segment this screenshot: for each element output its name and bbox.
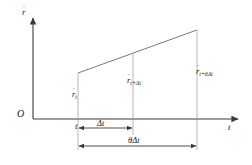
curve-label-sub-1: t — [75, 94, 77, 100]
curve-label-accel-t-plus-theta-dt: ¨rt+θΔt — [196, 67, 213, 77]
x-axis-label: t — [228, 123, 231, 132]
y-axis-label: ¨r — [22, 8, 26, 17]
origin-label: O — [17, 109, 24, 119]
dimension-label-delta-t: Δt — [97, 119, 104, 128]
double-dot-accent-y: ¨ — [23, 5, 25, 11]
dimension-label-theta-delta-t: θΔt — [128, 136, 140, 145]
double-dot-accent-1: ¨ — [73, 87, 75, 93]
curve-label-sub-3: t+θΔt — [199, 71, 212, 77]
tick-label-t: t — [75, 122, 78, 131]
acceleration-diagram: ¨r t O t ¨rt ¨rt+Δt ¨rt+θΔt Δt θΔt — [0, 0, 252, 165]
curve-label-accel-t-plus-dt: ¨rt+Δt — [127, 76, 141, 86]
diagram-canvas — [0, 0, 252, 165]
curve-label-accel-t: ¨rt — [72, 90, 77, 100]
double-dot-accent-2: ¨ — [128, 73, 130, 79]
acceleration-line — [78, 30, 197, 73]
curve-label-sub-2: t+Δt — [130, 80, 140, 86]
double-dot-accent-3: ¨ — [197, 64, 199, 70]
